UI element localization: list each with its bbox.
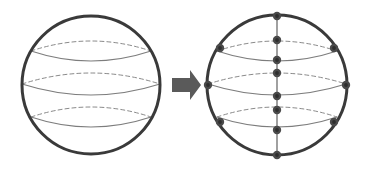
node-meridian-upper-front-core — [275, 58, 279, 62]
node-meridian-equator-front-core — [275, 94, 279, 98]
node-meridian-lower-back-core — [275, 108, 279, 112]
node-upper-left-core — [218, 46, 222, 50]
node-north-pole-core — [275, 14, 279, 18]
node-equator-right-core — [344, 83, 348, 87]
figure-root — [0, 0, 367, 171]
node-upper-right-core — [332, 46, 336, 50]
node-meridian-equator-back-core — [275, 71, 279, 75]
node-equator-left-core — [206, 83, 210, 87]
node-lower-right-core — [332, 120, 336, 124]
node-meridian-lower-front-core — [275, 128, 279, 132]
sphere-diagram-svg — [0, 0, 367, 171]
node-meridian-upper-back-core — [275, 38, 279, 42]
node-south-pole-core — [275, 153, 279, 157]
node-lower-left-core — [218, 120, 222, 124]
